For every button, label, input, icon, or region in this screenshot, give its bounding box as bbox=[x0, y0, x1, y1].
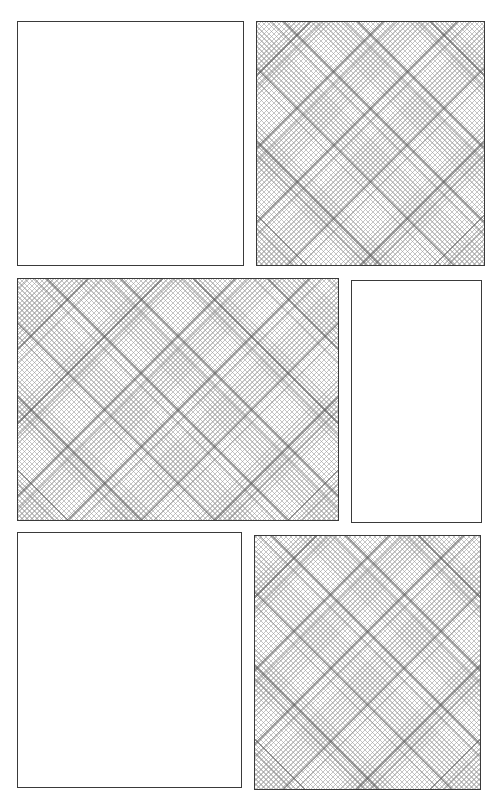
panel-5-fill: blank bbox=[18, 533, 19, 534]
panel-4-fill: blank bbox=[352, 281, 353, 282]
panel-2-crosshatch-tone: crosshatch-tone bbox=[256, 21, 485, 266]
panel-1-blank: blank bbox=[17, 21, 244, 266]
comic-page: blank crosshatch-tone crosshatch-tone bl… bbox=[0, 0, 492, 807]
panel-4-blank: blank bbox=[351, 280, 482, 523]
panel-3-crosshatch-tone: crosshatch-tone bbox=[17, 278, 339, 521]
panel-3-fill: crosshatch-tone bbox=[18, 279, 19, 280]
panel-1-fill: blank bbox=[18, 22, 19, 23]
panel-2-fill: crosshatch-tone bbox=[257, 22, 258, 23]
panel-5-blank: blank bbox=[17, 532, 242, 788]
panel-6-crosshatch-tone: crosshatch-tone bbox=[254, 535, 481, 790]
panel-6-fill: crosshatch-tone bbox=[255, 536, 256, 537]
